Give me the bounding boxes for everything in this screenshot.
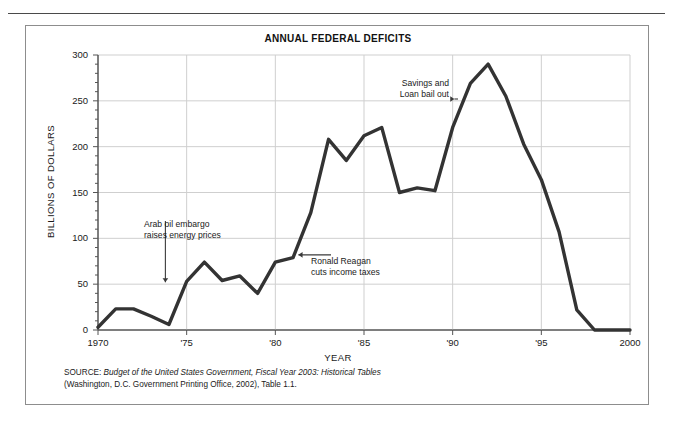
chart-figure-box: ANNUAL FEDERAL DEFICITS BILLIONS OF DOLL…	[25, 25, 649, 405]
source-prefix: SOURCE:	[64, 368, 104, 377]
annotation-arab-oil-embargo: Arab oil embargo raises energy prices	[144, 219, 221, 240]
x-axis-label: YEAR	[26, 352, 650, 363]
x-tick-label: 2000	[610, 337, 650, 348]
y-tick-label: 150	[58, 187, 88, 198]
arrow-arab-oil-head	[163, 278, 169, 282]
annotation-arab-oil-line2: raises energy prices	[144, 230, 221, 241]
top-divider-rule	[8, 13, 665, 14]
annotation-reagan-line2: cuts income taxes	[311, 267, 380, 278]
annotation-savings-loan-line2: Loan bail out	[361, 89, 449, 100]
x-tick-label: 1970	[78, 337, 118, 348]
source-note: SOURCE: Budget of the United States Gove…	[64, 367, 624, 391]
x-tick-label: '95	[521, 337, 561, 348]
y-tick-label: 0	[58, 324, 88, 335]
x-tick-label: '85	[344, 337, 384, 348]
chart-plot-svg	[26, 26, 650, 406]
x-tick-label: '90	[433, 337, 473, 348]
annotation-savings-loan-bailout: Savings and Loan bail out	[361, 78, 449, 99]
figure-page: ANNUAL FEDERAL DEFICITS BILLIONS OF DOLL…	[0, 0, 673, 421]
y-tick-label: 250	[58, 95, 88, 106]
y-tick-label: 100	[58, 232, 88, 243]
annotation-reagan-tax-cuts: Ronald Reagan cuts income taxes	[311, 256, 380, 277]
annotation-reagan-line1: Ronald Reagan	[311, 256, 380, 267]
y-tick-label: 50	[58, 278, 88, 289]
x-tick-label: '80	[255, 337, 295, 348]
source-citation-line2: (Washington, D.C. Government Printing Of…	[64, 380, 297, 389]
source-citation-title: Budget of the United States Government, …	[104, 368, 381, 377]
arrow-reagan-head	[298, 252, 302, 258]
y-tick-label: 200	[58, 141, 88, 152]
annotation-arab-oil-line1: Arab oil embargo	[144, 219, 221, 230]
y-tick-label: 300	[58, 49, 88, 60]
annotation-savings-loan-line1: Savings and	[361, 78, 449, 89]
y-axis-label: BILLIONS OF DOLLARS	[45, 122, 56, 242]
x-tick-label: '75	[167, 337, 207, 348]
